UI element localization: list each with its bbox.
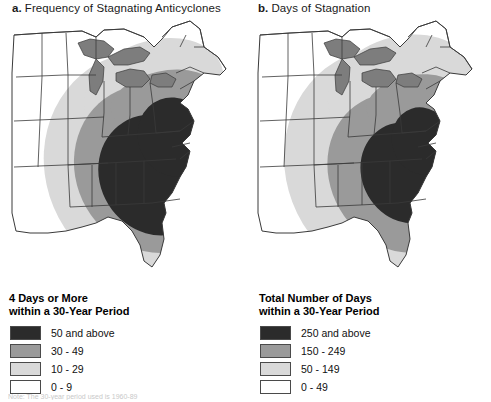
legend-b-label-3: 0 - 49 — [301, 381, 328, 393]
legend-b-title: Total Number of Days within a 30-Year Pe… — [259, 292, 483, 318]
legend-a-swatch-3 — [10, 380, 41, 394]
panel-b-title: b.Days of Stagnation — [258, 2, 370, 14]
panel-a-title-text: Frequency of Stagnating Anticyclones — [25, 2, 221, 14]
legend-b-label-0: 250 and above — [301, 327, 370, 339]
legend-a-label-1: 30 - 49 — [51, 345, 84, 357]
legend-a-label-3: 0 - 9 — [51, 381, 72, 393]
legend-a-swatch-0 — [10, 326, 41, 340]
figure-footnote: Note: The 30-year period used is 1960-89 — [8, 393, 428, 400]
panel-b-title-text: Days of Stagnation — [271, 2, 370, 14]
legend-a-row-1: 30 - 49 — [8, 342, 233, 359]
legend-a-title: 4 Days or More within a 30-Year Period — [9, 292, 233, 318]
legend-a-title-line1: 4 Days or More — [9, 292, 233, 305]
legend-b-title-line1: Total Number of Days — [259, 292, 483, 305]
legend-a: 4 Days or More within a 30-Year Period 5… — [8, 292, 233, 396]
map-b — [250, 17, 486, 283]
legend-a-label-0: 50 and above — [51, 327, 115, 339]
map-a — [4, 17, 240, 283]
legend-a-title-line2: within a 30-Year Period — [9, 305, 233, 318]
legend-b-title-line2: within a 30-Year Period — [259, 305, 483, 318]
panel-a-title: a.Frequency of Stagnating Anticyclones — [12, 2, 221, 14]
legend-a-swatch-2 — [10, 362, 41, 376]
panel-b: b.Days of Stagnation — [246, 0, 491, 402]
legend-b-row-0: 250 and above — [258, 324, 483, 341]
panel-b-marker: b. — [258, 2, 268, 14]
legend-b-swatch-3 — [260, 380, 291, 394]
legend-a-row-2: 10 - 29 — [8, 360, 233, 377]
legend-b-label-2: 50 - 149 — [301, 363, 340, 375]
legend-b: Total Number of Days within a 30-Year Pe… — [258, 292, 483, 396]
figure-root: a.Frequency of Stagnating Anticyclones — [0, 0, 491, 402]
legend-b-row-1: 150 - 249 — [258, 342, 483, 359]
map-b-svg — [250, 17, 486, 283]
legend-b-label-1: 150 - 249 — [301, 345, 345, 357]
map-a-svg — [4, 17, 240, 283]
legend-a-label-2: 10 - 29 — [51, 363, 84, 375]
panel-a: a.Frequency of Stagnating Anticyclones — [0, 0, 245, 402]
legend-a-row-0: 50 and above — [8, 324, 233, 341]
legend-a-swatch-1 — [10, 344, 41, 358]
legend-b-swatch-2 — [260, 362, 291, 376]
legend-b-swatch-0 — [260, 326, 291, 340]
legend-b-swatch-1 — [260, 344, 291, 358]
panel-a-marker: a. — [12, 2, 22, 14]
legend-b-row-2: 50 - 149 — [258, 360, 483, 377]
